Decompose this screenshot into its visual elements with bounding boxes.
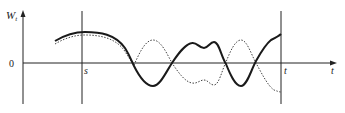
x-axis-label: t — [331, 65, 334, 76]
y-axis-arrow-icon — [21, 10, 26, 17]
s-tick-label: s — [84, 65, 88, 76]
origin-label: 0 — [9, 58, 14, 69]
t-tick-label: t — [284, 65, 287, 76]
y-axis-label: Wt — [6, 9, 18, 23]
brownian-path-figure: Wt 0 s t t — [0, 0, 345, 113]
solid-path — [55, 32, 281, 86]
